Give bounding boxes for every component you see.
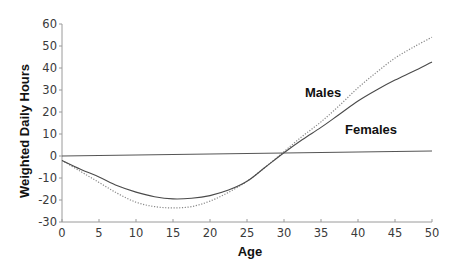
y-tick-label: -30 <box>38 215 57 229</box>
y-tick-label: 10 <box>42 127 57 141</box>
x-tick-label: 15 <box>166 226 181 240</box>
x-tick-label: 45 <box>388 226 403 240</box>
x-tick-label: 20 <box>203 226 218 240</box>
x-tick-label: 5 <box>95 226 102 240</box>
y-axis-ticks: -30-20-100102030405060 <box>38 17 62 229</box>
y-tick-label: -10 <box>38 171 57 185</box>
y-tick-label: 0 <box>50 149 57 163</box>
x-tick-label: 30 <box>277 226 292 240</box>
y-tick-label: -20 <box>38 193 57 207</box>
females-series-label: Females <box>345 122 397 137</box>
y-axis-title: Weighted Daily Hours <box>17 64 32 198</box>
y-tick-label: 30 <box>42 83 57 97</box>
x-tick-label: 10 <box>129 226 144 240</box>
y-tick-label: 20 <box>42 105 57 119</box>
line-chart: -30-20-100102030405060 05101520253035404… <box>0 0 458 275</box>
x-tick-label: 50 <box>425 226 440 240</box>
y-tick-label: 50 <box>42 39 57 53</box>
x-axis-title: Age <box>238 244 263 259</box>
x-tick-label: 40 <box>351 226 366 240</box>
x-tick-label: 25 <box>240 226 255 240</box>
y-tick-label: 40 <box>42 61 57 75</box>
baseline-line <box>62 151 432 156</box>
x-tick-label: 0 <box>58 226 65 240</box>
males-series-label: Males <box>305 85 341 100</box>
x-tick-label: 35 <box>314 226 329 240</box>
y-tick-label: 60 <box>42 17 57 31</box>
